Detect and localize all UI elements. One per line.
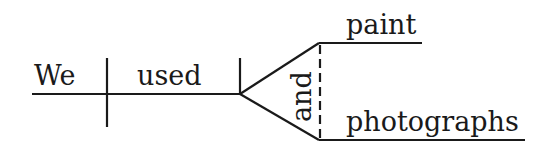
object-word-2: photographs	[346, 106, 519, 137]
conjunction-word: and	[286, 71, 317, 122]
verb-word: used	[137, 60, 202, 91]
object-word-1: paint	[346, 9, 416, 40]
subject-word: We	[34, 60, 76, 91]
sentence-diagram: We used paint photographs and	[0, 0, 550, 151]
diagram-canvas: We used paint photographs and	[0, 0, 550, 151]
